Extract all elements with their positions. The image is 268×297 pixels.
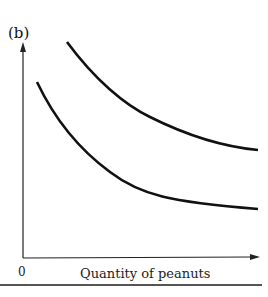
- divider: [0, 284, 262, 286]
- x-axis: [23, 257, 252, 258]
- x-axis-label: Quantity of peanuts: [80, 266, 210, 281]
- chart-plot: [0, 0, 268, 297]
- origin-label: 0: [18, 265, 26, 279]
- y-axis-arrow-icon: [20, 42, 26, 52]
- upper-curve: [67, 42, 258, 150]
- x-axis-arrow-icon: [250, 254, 260, 260]
